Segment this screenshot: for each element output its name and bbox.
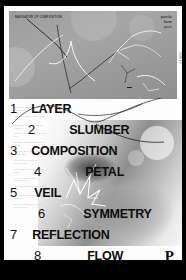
list-item-number: 8 xyxy=(34,249,41,260)
panel-wordmark: poetic form quiet xyxy=(152,15,172,30)
list-item-word: FLOW xyxy=(87,250,123,260)
list-item-word: COMPOSITION xyxy=(31,145,117,158)
list-item: 5 VEIL xyxy=(4,186,182,200)
list-item-word: REFLECTION xyxy=(32,229,109,242)
list-item: 4 PETAL xyxy=(4,165,182,179)
list-item-number: 5 xyxy=(10,186,17,199)
wordmark-line-3: quiet xyxy=(164,25,172,30)
list-item: 7 REFLECTION xyxy=(4,228,182,242)
list-item-word: SYMMETRY xyxy=(83,208,151,221)
list-item: 3 COMPOSITION xyxy=(4,144,182,158)
list-item: 8 FLOW xyxy=(4,249,182,260)
poster-card: NAVIGATOR OF COMPOSITION poetic form qui… xyxy=(4,6,182,260)
accent-curve xyxy=(4,98,182,138)
list-item-word: PETAL xyxy=(85,166,124,179)
list-item-word: VEIL xyxy=(34,187,61,200)
list-item-number: 4 xyxy=(34,165,41,178)
top-photo-panel: NAVIGATOR OF COMPOSITION poetic form qui… xyxy=(9,11,177,99)
panel-caption: NAVIGATOR OF COMPOSITION xyxy=(15,16,62,20)
list-item: 6 SYMMETRY xyxy=(4,207,182,221)
list-item-number: 6 xyxy=(38,207,45,220)
vertical-side-label: SERIES xyxy=(178,52,181,64)
list-item-number: 7 xyxy=(10,228,17,241)
logo-p: P xyxy=(165,249,174,260)
list-item-number: 3 xyxy=(10,144,17,157)
